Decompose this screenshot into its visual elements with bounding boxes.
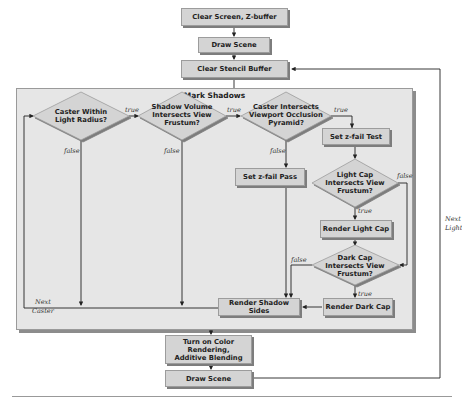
set-zfail-test-label: Set z-fail Test <box>330 133 382 141</box>
edge-label-false-light-cap: false <box>397 172 413 180</box>
set-zfail-pass-label: Set z-fail Pass <box>243 173 297 181</box>
render-light-cap-box: Render Light Cap <box>320 220 392 238</box>
caster-occlusion-label: Caster Intersects Viewport Occlusion Pyr… <box>243 103 329 127</box>
edge-label-true-1: true <box>125 106 139 114</box>
draw-scene-bottom-label: Draw Scene <box>186 375 231 383</box>
flowchart-canvas: Mark Shadows <box>0 0 462 406</box>
edge-label-true-light-cap: true <box>358 207 372 215</box>
clear-stencil-box: Clear Stencil Buffer <box>181 60 288 78</box>
render-dark-cap-label: Render Dark Cap <box>326 303 391 311</box>
edge-label-false-dark-cap: false <box>291 256 307 264</box>
shadow-volume-frustum-label: Shadow Volume Intersects View Frustum? <box>142 103 222 127</box>
edge-label-true-3: true <box>334 106 348 114</box>
set-zfail-pass-box: Set z-fail Pass <box>235 168 305 186</box>
edge-label-false-2: false <box>164 147 180 155</box>
edge-label-true-2: true <box>227 106 241 114</box>
render-dark-cap-box: Render Dark Cap <box>323 298 393 316</box>
edge-label-false-1: false <box>64 147 80 155</box>
next-caster-label: Next Caster <box>34 298 54 316</box>
clear-stencil-label: Clear Stencil Buffer <box>197 65 271 73</box>
next-light-label: Next Light <box>445 215 462 233</box>
render-shadow-sides-label: Render Shadow Sides <box>219 299 299 315</box>
color-rendering-box: Turn on Color Rendering, Additive Blendi… <box>165 335 252 364</box>
caster-within-radius-label: Caster Within Light Radius? <box>46 108 116 124</box>
draw-scene-top-label: Draw Scene <box>211 41 256 49</box>
edge-label-false-3: false <box>270 147 286 155</box>
dark-cap-frustum-label: Dark Cap Intersects View Frustum? <box>318 254 392 278</box>
set-zfail-test-box: Set z-fail Test <box>322 128 390 145</box>
caption-rule <box>12 396 452 397</box>
render-light-cap-label: Render Light Cap <box>323 225 389 233</box>
draw-scene-top-box: Draw Scene <box>198 37 270 53</box>
render-shadow-sides-box: Render Shadow Sides <box>218 298 300 316</box>
draw-scene-bottom-box: Draw Scene <box>165 370 252 387</box>
clear-screen-box: Clear Screen, Z-buffer <box>181 8 288 26</box>
light-cap-frustum-label: Light Cap Intersects View Frustum? <box>318 171 392 195</box>
edge-label-true-dark-cap: true <box>358 290 372 298</box>
clear-screen-label: Clear Screen, Z-buffer <box>192 13 276 21</box>
